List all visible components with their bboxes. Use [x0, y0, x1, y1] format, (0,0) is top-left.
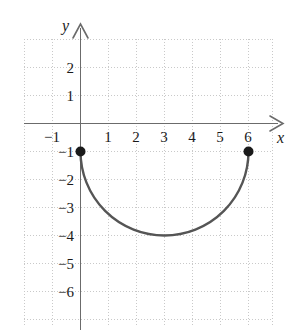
x-axis-label: x	[277, 130, 284, 146]
endpoint-dot-right	[244, 147, 254, 157]
x-tick-label-1: 1	[98, 130, 118, 145]
x-tick-label-5: 5	[210, 130, 230, 145]
x-tick-label-2: 2	[126, 130, 146, 145]
x-tick-label-neg1: −1	[42, 130, 62, 145]
y-axis-label: y	[62, 18, 69, 34]
y-tick-label-neg6: −6	[48, 285, 74, 300]
y-tick-label-1: 1	[48, 89, 74, 104]
y-axis	[73, 24, 88, 330]
endpoint-dot-left	[76, 147, 86, 157]
y-tick-label-neg3: −3	[48, 201, 74, 216]
y-tick-label-2: 2	[48, 61, 74, 76]
y-tick-label-neg5: −5	[48, 257, 74, 272]
x-tick-label-3: 3	[154, 130, 174, 145]
x-tick-label-4: 4	[182, 130, 202, 145]
x-tick-label-6: 6	[238, 130, 258, 145]
y-tick-label-neg2: −2	[48, 173, 74, 188]
graph-figure: −1 1 2 3 4 5 6 2 1 −1 −2 −3 −4 −5 −6 y x	[0, 0, 300, 333]
coordinate-plane-svg	[0, 0, 300, 333]
y-tick-label-neg4: −4	[48, 229, 74, 244]
y-tick-label-neg1: −1	[48, 145, 74, 160]
